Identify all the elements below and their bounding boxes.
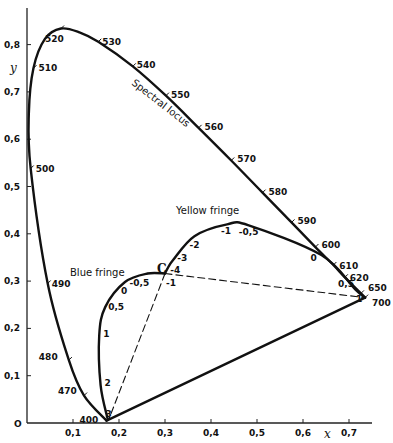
wavelength-tick [199, 125, 202, 128]
wavelength-label-530: 530 [102, 37, 121, 47]
x-tick-label: 0,1 [65, 428, 81, 438]
y-tick-label: 0,2 [4, 323, 20, 333]
wavelength-label-480: 480 [39, 352, 58, 362]
blue-fringe-label--0_5: -0,5 [130, 278, 150, 288]
yellow-fringe-label--0_5: -0,5 [239, 227, 259, 237]
wavelength-label-580: 580 [269, 187, 288, 197]
wavelength-label-700: 700 [372, 298, 391, 308]
y-axis-label: y [9, 61, 17, 75]
yellow-fringe-label-0_5: 0,5 [338, 279, 354, 289]
tick-marks: 4004704804905005105205305405505605705805… [31, 26, 391, 425]
x-tick-label: 0,5 [249, 428, 265, 438]
chromaticity-diagram: 0,10,20,30,40,50,60,70,10,20,30,40,50,60… [0, 0, 393, 443]
purple-line-line [107, 298, 366, 421]
x-tick-label: 0,7 [341, 428, 357, 438]
wavelength-tick [263, 190, 266, 193]
wavelength-label-650: 650 [368, 283, 387, 293]
yellow-fringe-label--1: -1 [221, 226, 231, 236]
blue-fringe-label: Blue fringe [70, 267, 125, 278]
wavelength-label-610: 610 [339, 261, 358, 271]
yellow-fringe-label-1: 1 [356, 294, 362, 304]
y-tick-label: 0,7 [4, 87, 20, 97]
wavelength-tick [365, 295, 368, 298]
wavelength-label-540: 540 [137, 60, 156, 70]
yellow-fringe-label: Yellow fringe [175, 205, 239, 216]
blue-fringe-label-1: 1 [103, 329, 109, 339]
blue-fringe-label-0: 0 [121, 286, 127, 296]
wavelength-label-560: 560 [205, 122, 224, 132]
blue-fringe-label-3: 3 [106, 409, 112, 419]
yellow-fringe-label--2: -2 [189, 240, 199, 250]
yellow-fringe-label--4: -4 [170, 265, 180, 275]
x-tick-label: 0,3 [157, 428, 173, 438]
y-tick-label: 0,8 [4, 40, 20, 50]
yellow-fringe-line [165, 222, 365, 297]
y-tick-label: 0,5 [4, 182, 20, 192]
x-axis-label: x [324, 427, 331, 441]
wavelength-label-570: 570 [237, 154, 256, 164]
wavelength-label-500: 500 [36, 164, 55, 174]
origin-label: O [14, 419, 22, 429]
labels: x y O Spectral locus Yellow fringe Blue … [9, 61, 331, 441]
wavelength-label-400: 400 [80, 415, 99, 425]
wavelength-tick [315, 244, 318, 247]
blue-fringe-label-2: 2 [105, 378, 111, 388]
x-tick-label: 0,6 [295, 428, 311, 438]
axes: 0,10,20,30,40,50,60,70,10,20,30,40,50,60… [4, 8, 372, 438]
wavelength-label-510: 510 [38, 63, 57, 73]
blue-fringe-label--1: -1 [166, 278, 176, 288]
wavelength-label-520: 520 [45, 34, 64, 44]
spectral-locus-label: Spectral locus [130, 77, 192, 129]
dashed-line-c-to-700-nm-line [165, 274, 365, 298]
wavelength-label-470: 470 [58, 386, 77, 396]
y-tick-label: 0,4 [4, 229, 20, 239]
y-tick-label: 0,6 [4, 134, 20, 144]
blue-fringe-label-0_5: 0,5 [108, 302, 124, 312]
y-tick-label: 0,1 [4, 371, 20, 381]
wavelength-tick [166, 93, 169, 96]
x-tick-label: 0,2 [111, 428, 127, 438]
wavelength-label-600: 600 [321, 240, 340, 250]
wavelength-tick [133, 63, 136, 66]
wavelength-tick [292, 219, 295, 222]
wavelength-label-490: 490 [52, 279, 71, 289]
yellow-fringe-label--3: -3 [177, 253, 187, 263]
wavelength-label-590: 590 [298, 216, 317, 226]
wavelength-tick [231, 157, 234, 160]
white-point-c-label: C [157, 262, 167, 276]
y-tick-label: 0,3 [4, 276, 20, 286]
yellow-fringe-label-0: 0 [310, 253, 316, 263]
wavelength-label-550: 550 [171, 90, 190, 100]
x-tick-label: 0,4 [203, 428, 219, 438]
